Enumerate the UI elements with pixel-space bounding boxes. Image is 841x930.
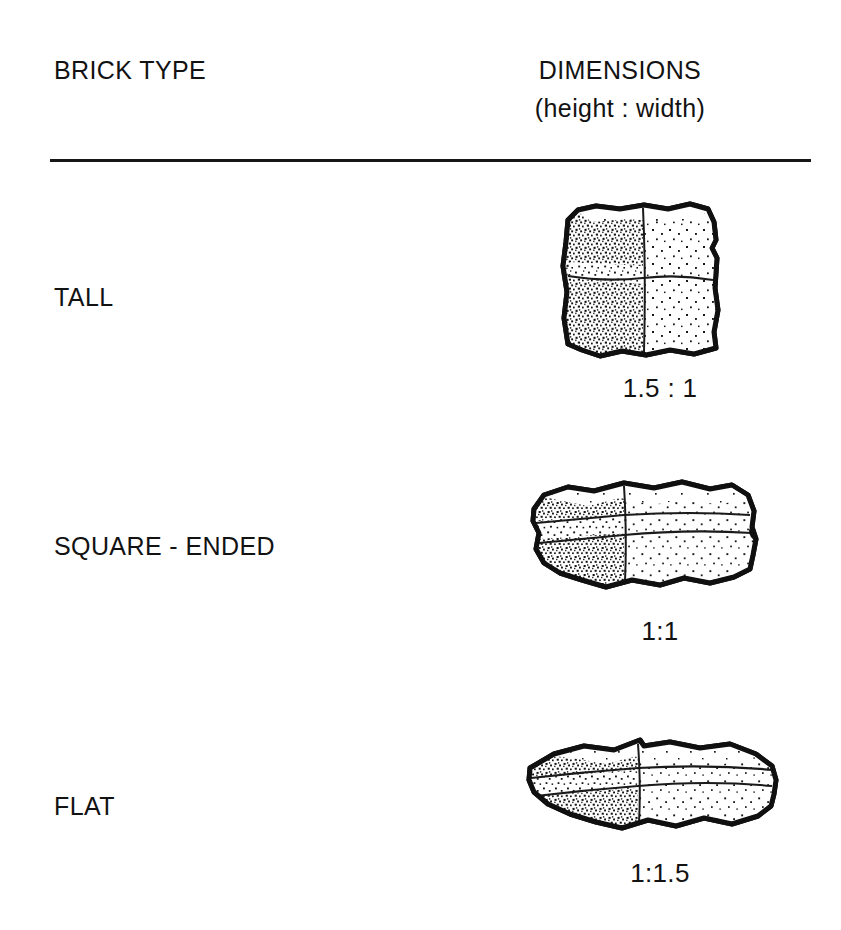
column-header-dimensions-title: DIMENSIONS bbox=[539, 56, 701, 84]
ratio-value-tall: 1.5 : 1 bbox=[540, 373, 780, 404]
column-header-dimensions-subtitle: (height : width) bbox=[470, 94, 770, 123]
row-label-square-ended: SQUARE - ENDED bbox=[54, 532, 275, 561]
column-header-dimensions: DIMENSIONS (height : width) bbox=[470, 56, 770, 123]
ratio-value-square-ended: 1:1 bbox=[540, 616, 780, 647]
row-label-flat: FLAT bbox=[54, 792, 115, 821]
brick-type-dimensions-figure: BRICK TYPE DIMENSIONS (height : width) T… bbox=[0, 0, 841, 930]
flat-brick-illustration bbox=[518, 726, 786, 860]
header-divider-rule bbox=[50, 159, 811, 162]
square-ended-brick-illustration bbox=[520, 465, 765, 619]
column-header-brick-type: BRICK TYPE bbox=[54, 56, 206, 85]
row-label-tall: TALL bbox=[54, 283, 114, 312]
tall-brick-illustration bbox=[548, 192, 758, 371]
ratio-value-flat: 1:1.5 bbox=[540, 858, 780, 889]
